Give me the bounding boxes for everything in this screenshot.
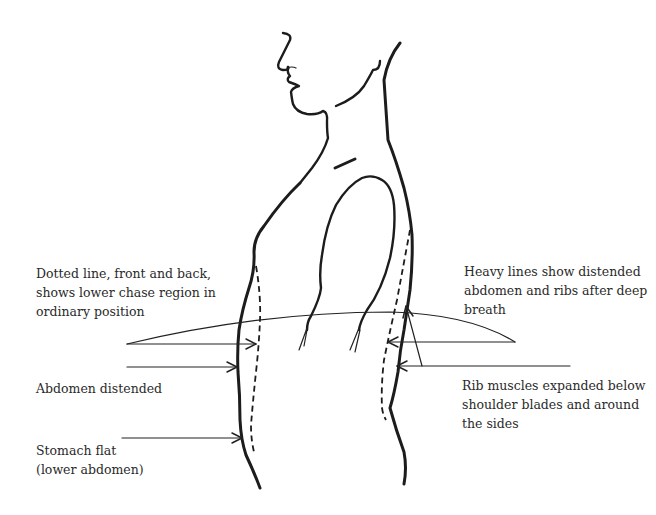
collarbone-mark: [335, 159, 355, 168]
label-abdomen-distended: Abdomen distended: [36, 379, 162, 398]
eye-brow: [287, 67, 296, 68]
face-profile: [278, 33, 290, 70]
fingers-front: [299, 328, 307, 350]
nose-mouth: [288, 67, 328, 183]
jaw-line: [336, 61, 380, 106]
label-heavy-lines: Heavy lines show distended abdomen and r…: [464, 262, 647, 319]
arm-outline: [307, 176, 395, 330]
breathing-posture-figure: [0, 0, 656, 515]
label-stomach-flat: Stomach flat (lower abdomen): [36, 441, 144, 479]
dotted-front-line: [251, 266, 260, 452]
fingers-back: [350, 328, 360, 352]
front-outline: [238, 183, 300, 488]
label-rib-muscles: Rib muscles expanded below shoulder blad…: [462, 376, 645, 433]
arrow-heavy-lines: [406, 306, 422, 366]
label-dotted-line: Dotted line, front and back, shows lower…: [36, 264, 216, 321]
